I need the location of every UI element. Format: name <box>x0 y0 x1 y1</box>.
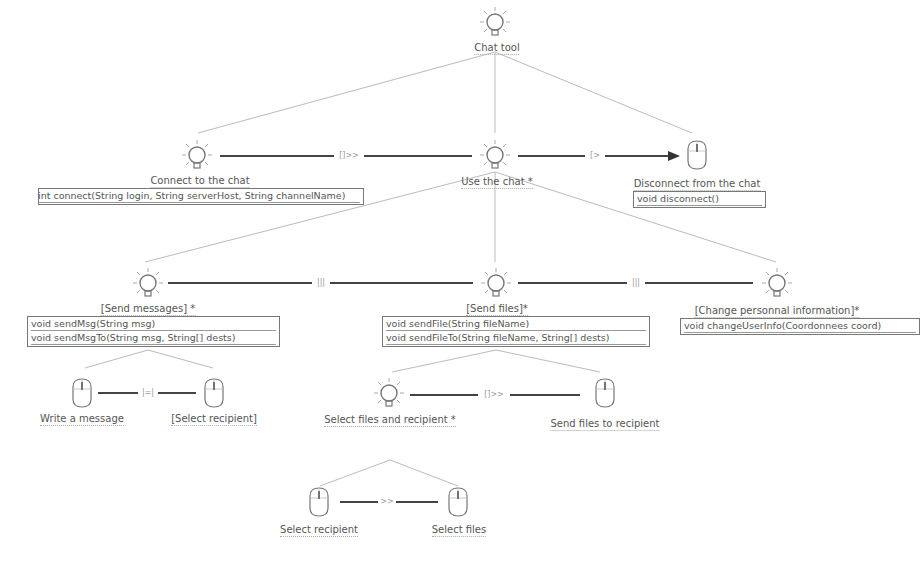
mouse-icon <box>73 379 91 407</box>
task-write-message[interactable]: Write a message <box>40 413 124 426</box>
operator-interleaving: ||| <box>630 278 642 288</box>
task-disconnect[interactable]: Disconnect from the chat <box>634 178 761 191</box>
method-connect: int connect(String login, String serverH… <box>38 190 360 203</box>
operator-enabling: >> <box>378 497 395 507</box>
method-box-change-info: void changeUserInfo(Coordonnees coord) <box>680 318 920 335</box>
task-use-chat[interactable]: Use the chat * <box>461 176 533 189</box>
arrow-head-icon <box>668 151 680 161</box>
lightbulb-icon <box>481 268 511 296</box>
lightbulb-icon <box>133 268 163 296</box>
mouse-icon <box>596 379 614 407</box>
task-connect[interactable]: Connect to the chat <box>150 175 249 188</box>
mouse-icon <box>688 141 706 169</box>
method-send-file: void sendFile(String fileName) <box>386 318 646 331</box>
operator-disabling: [> <box>588 151 602 161</box>
task-select-recipient[interactable]: [Select recipient] <box>171 413 257 426</box>
operator-enabling-info: []>> <box>482 390 506 400</box>
lightbulb-icon <box>182 140 212 168</box>
task-select-files[interactable]: Select files <box>432 524 486 537</box>
task-send-files[interactable]: [Send files]* <box>466 303 528 316</box>
task-chat-tool[interactable]: Chat tool <box>474 42 519 55</box>
lightbulb-icon <box>374 378 404 406</box>
method-send-msg-to: void sendMsgTo(String msg, String[] dest… <box>31 332 276 345</box>
method-box-send-files: void sendFile(String fileName) void send… <box>382 316 650 347</box>
method-change-user-info: void changeUserInfo(Coordonnees coord) <box>684 320 916 333</box>
lightbulb-icon <box>762 268 792 296</box>
task-change-info[interactable]: [Change personnal information]* <box>695 305 860 318</box>
operator-enabling-info: []>> <box>337 151 361 161</box>
task-send-messages[interactable]: [Send messages] * <box>101 303 196 316</box>
method-send-msg: void sendMsg(String msg) <box>31 318 276 331</box>
method-box-connect: int connect(String login, String serverH… <box>38 188 364 205</box>
task-select-files-and-recipient[interactable]: Select files and recipient * <box>324 414 456 427</box>
task-select-recipient-2[interactable]: Select recipient <box>280 524 358 537</box>
mouse-icon <box>449 488 467 516</box>
method-send-file-to: void sendFileTo(String fileName, String[… <box>386 332 646 345</box>
lightbulb-icon <box>480 7 510 35</box>
mouse-icon <box>205 379 223 407</box>
operator-order-independence: |=| <box>140 388 156 398</box>
method-box-send-messages: void sendMsg(String msg) void sendMsgTo(… <box>27 316 280 347</box>
operator-interleaving: ||| <box>315 278 327 288</box>
method-disconnect: void disconnect() <box>637 193 762 206</box>
lightbulb-icon <box>480 140 510 168</box>
task-send-files-to-recipient[interactable]: Send files to recipient <box>550 418 659 431</box>
mouse-icon <box>310 488 328 516</box>
method-box-disconnect: void disconnect() <box>633 191 766 208</box>
